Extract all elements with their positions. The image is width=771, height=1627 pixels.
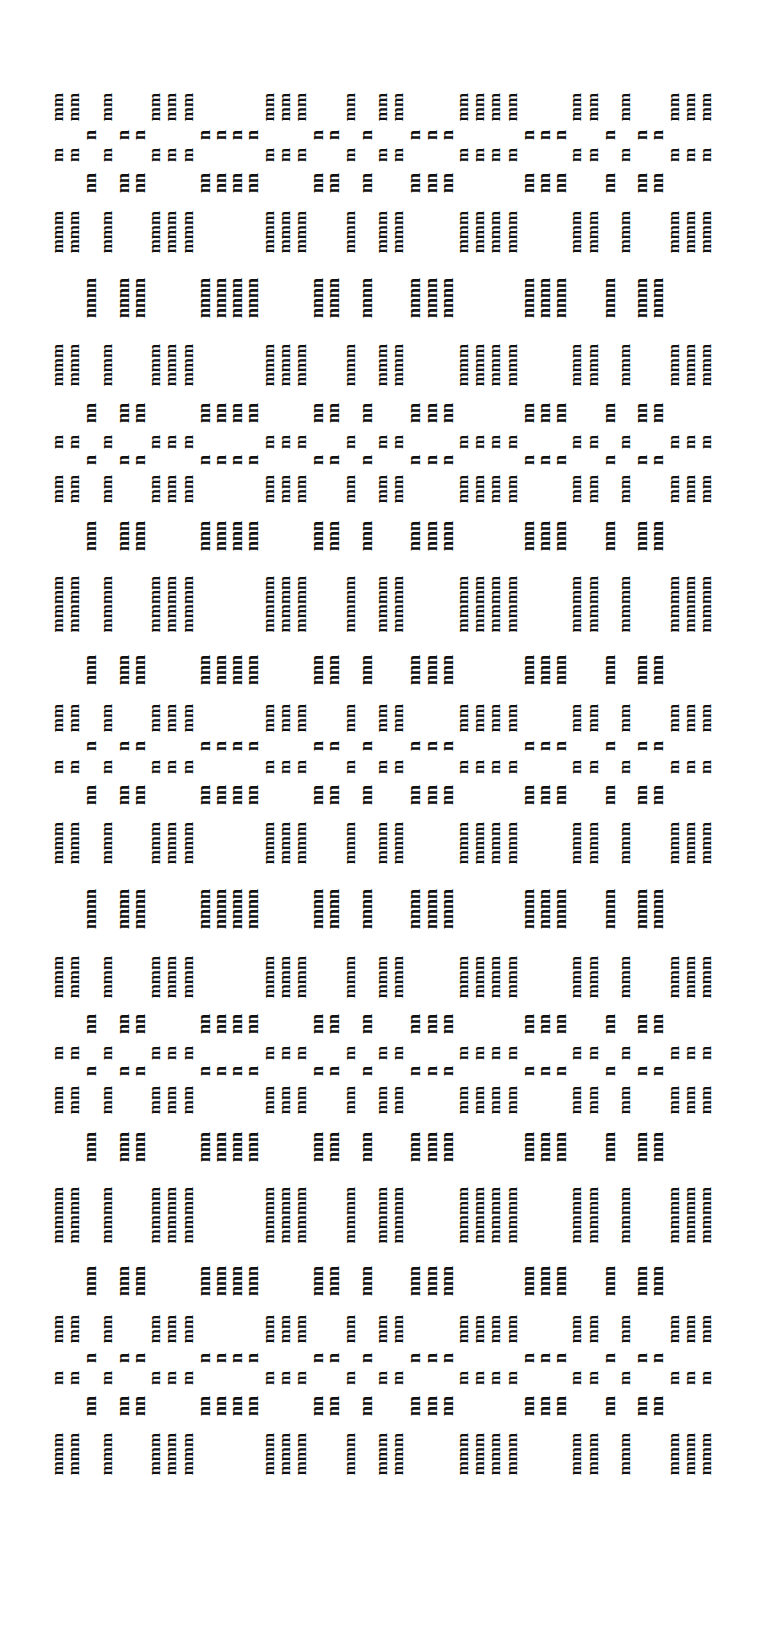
weave-cell-n: nnn bbox=[520, 451, 569, 470]
weave-cell-m: mmm bbox=[617, 1425, 633, 1482]
typed-line: m bbox=[261, 1368, 277, 1387]
weave-cell-n: nnn bbox=[406, 737, 455, 756]
weave-cell-n: nn bbox=[358, 1005, 374, 1043]
weave-cell-m: mm bbox=[99, 88, 115, 126]
typed-line: n bbox=[520, 737, 536, 756]
typed-line: nn bbox=[131, 1387, 147, 1425]
typed-line: mmm bbox=[682, 336, 698, 393]
typed-line: mm bbox=[617, 470, 633, 508]
weave-cell-n: nnnnnn bbox=[309, 1119, 341, 1176]
typed-line: mmm bbox=[374, 336, 390, 393]
typed-line: nn bbox=[358, 1005, 374, 1043]
typed-line: mm bbox=[504, 1310, 520, 1348]
typed-line: n bbox=[439, 126, 455, 145]
weave-cell-m: mmmm bbox=[374, 1081, 406, 1119]
weave-cell-m: mmmm bbox=[455, 145, 520, 164]
typed-line: mm bbox=[504, 1081, 520, 1119]
typed-line: nn bbox=[520, 776, 536, 814]
typed-line: nnnn bbox=[228, 260, 244, 336]
typed-line: mm bbox=[504, 699, 520, 737]
typed-line: nn bbox=[196, 1005, 212, 1043]
weave-cell-n: nnnn bbox=[196, 126, 261, 145]
typed-line: mmm bbox=[698, 948, 714, 1005]
typed-line: nn bbox=[601, 164, 617, 202]
weave-cell-m: mm bbox=[374, 1368, 406, 1387]
typed-line: mm bbox=[585, 470, 601, 508]
typed-line: mm bbox=[682, 1310, 698, 1348]
typed-line: m bbox=[180, 432, 196, 451]
typed-line: nn bbox=[325, 164, 341, 202]
typed-line: mmmm bbox=[277, 1177, 293, 1253]
typed-line: mmmm bbox=[617, 1177, 633, 1253]
typed-line: mmmm bbox=[50, 1177, 66, 1253]
typed-line: m bbox=[585, 145, 601, 164]
typed-line: mmm bbox=[698, 1425, 714, 1482]
typed-line: nn bbox=[309, 1005, 325, 1043]
weave-cell-m: mm bbox=[568, 1368, 600, 1387]
weave-cell-n: n bbox=[358, 451, 374, 470]
weave-cell-n: nnnnnnnnn bbox=[406, 1119, 455, 1176]
weave-cell-m: mmmmmmmm bbox=[568, 1177, 600, 1253]
weave-cell-n: nnnnnn bbox=[309, 642, 341, 699]
typed-line: nn bbox=[196, 776, 212, 814]
typed-line: mm bbox=[293, 1081, 309, 1119]
typed-line: mm bbox=[147, 88, 163, 126]
typed-line: nn bbox=[325, 1387, 341, 1425]
typed-line: mm bbox=[66, 1081, 82, 1119]
weave-cell-m: mmmmmm bbox=[666, 1081, 715, 1119]
typed-line: mm bbox=[487, 470, 503, 508]
weave-cell-n: nnnn bbox=[309, 164, 341, 202]
weave-cell-n: nnnn bbox=[358, 260, 374, 336]
typed-line: mm bbox=[390, 88, 406, 126]
weave-cell-n: nn bbox=[358, 1387, 374, 1425]
typed-line: mm bbox=[666, 88, 682, 126]
typed-line: mmm bbox=[471, 336, 487, 393]
typed-line: mmm bbox=[50, 814, 66, 871]
weave-cell-m: mm bbox=[568, 757, 600, 776]
weave-cell-m: mmmmmm bbox=[261, 699, 310, 737]
typed-line: n bbox=[115, 1062, 131, 1081]
typed-line: mmm bbox=[455, 1425, 471, 1482]
typed-line: nnn bbox=[244, 1119, 260, 1176]
typed-line: nnnn bbox=[212, 871, 228, 947]
typed-line: mmmm bbox=[147, 1177, 163, 1253]
typed-line: n bbox=[131, 126, 147, 145]
weave-cell-m: m bbox=[99, 432, 115, 451]
typed-line: nn bbox=[115, 776, 131, 814]
typed-line: m bbox=[277, 757, 293, 776]
weave-cell-n: nnn bbox=[82, 508, 98, 565]
typed-line: n bbox=[309, 1062, 325, 1081]
typed-line: m bbox=[504, 432, 520, 451]
typed-line: mmmm bbox=[568, 1177, 584, 1253]
typed-line: n bbox=[520, 126, 536, 145]
typed-line: n bbox=[115, 451, 131, 470]
typed-line: mmm bbox=[698, 336, 714, 393]
typed-line: m bbox=[163, 757, 179, 776]
weave-cell-m: mm bbox=[617, 1310, 633, 1348]
typewriter-weave-artwork: mmmmmmmmmmmmmmmmmmmmmmmmmmmmmmmmmmmmmmmm… bbox=[0, 0, 771, 1627]
typed-line: n bbox=[244, 737, 260, 756]
typed-line: m bbox=[471, 145, 487, 164]
weave-cell-n: nnnnnn bbox=[309, 1253, 341, 1310]
typed-line: nnn bbox=[309, 508, 325, 565]
typed-line: m bbox=[342, 145, 358, 164]
typed-line: nnnn bbox=[423, 260, 439, 336]
typed-line: m bbox=[585, 757, 601, 776]
typed-line: mm bbox=[568, 1081, 584, 1119]
weave-cell-n: nnnnnnnnn bbox=[520, 642, 569, 699]
typed-line: nnnn bbox=[196, 260, 212, 336]
typed-line: m bbox=[293, 432, 309, 451]
typed-line: mmm bbox=[585, 948, 601, 1005]
typed-line: mmm bbox=[163, 948, 179, 1005]
weave-cell-n: nn bbox=[309, 126, 341, 145]
weave-cell-m: mm bbox=[342, 88, 358, 126]
typed-line: nn bbox=[552, 1005, 568, 1043]
weave-cell-n: nnnn bbox=[633, 1387, 665, 1425]
typed-line: mmmm bbox=[568, 566, 584, 642]
typed-line: mm bbox=[568, 470, 584, 508]
weave-cell-n: n bbox=[82, 126, 98, 145]
weave-cell-n: n bbox=[358, 737, 374, 756]
typed-line: m bbox=[390, 757, 406, 776]
weave-cell-m: mm bbox=[617, 699, 633, 737]
typed-line: mm bbox=[471, 470, 487, 508]
